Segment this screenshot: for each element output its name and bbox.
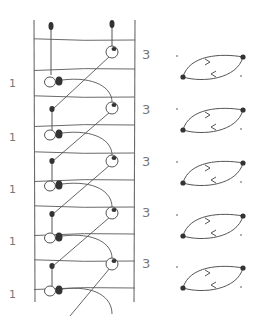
node-highlight <box>112 103 117 107</box>
right-label: 3 <box>142 206 150 219</box>
left-label: 1 <box>9 289 16 300</box>
left-label: 1 <box>9 132 16 143</box>
dark-node <box>56 286 63 295</box>
cycle-diagram <box>176 54 245 79</box>
cycle-node-left <box>180 180 185 185</box>
arrow-left-icon <box>211 230 216 236</box>
open-node-1 <box>45 181 56 191</box>
tick-mark <box>176 214 178 216</box>
arc-strand <box>62 183 112 207</box>
lower-arc <box>183 216 243 239</box>
open-node-3 <box>106 46 118 58</box>
arrow-left-icon <box>211 71 216 77</box>
tick-mark <box>176 161 178 163</box>
rung <box>34 206 135 208</box>
left-label: 1 <box>9 236 16 247</box>
right-label: 3 <box>142 103 150 116</box>
tick-mark <box>240 75 242 77</box>
arrow-right-icon <box>205 165 210 171</box>
arc-strand <box>62 79 112 102</box>
left-label: 1 <box>9 184 16 195</box>
rung <box>34 125 135 127</box>
small-dot <box>49 158 54 164</box>
ladder-cycle-diagram <box>0 0 264 316</box>
cycle-node-right <box>240 54 245 59</box>
upper-arc <box>183 214 243 236</box>
cycle-node-right <box>240 107 245 112</box>
rung <box>34 96 135 98</box>
cycle-diagram <box>176 107 245 132</box>
diagonal-strand <box>70 268 110 316</box>
open-node-1 <box>45 77 56 87</box>
open-node-1 <box>45 286 56 296</box>
tick-mark <box>176 55 178 57</box>
arrow-right-icon <box>205 218 210 224</box>
upper-arc <box>183 161 243 183</box>
arrow-right-icon <box>205 270 210 276</box>
left-label: 1 <box>9 78 16 89</box>
rung <box>34 39 135 41</box>
cycle-node-left <box>180 74 185 79</box>
node-highlight <box>112 47 117 51</box>
arc-strand <box>62 288 112 314</box>
cycle-node-right <box>240 213 245 218</box>
right-rail <box>134 20 135 302</box>
upper-arc <box>183 55 243 77</box>
node-highlight <box>112 208 117 212</box>
dark-node <box>56 233 63 242</box>
rung <box>34 260 135 262</box>
dark-node <box>56 130 63 139</box>
top-right-dot <box>110 20 115 28</box>
upper-arc <box>183 108 243 130</box>
upper-arc <box>183 266 243 288</box>
arrow-left-icon <box>211 124 216 130</box>
cycle-node-left <box>180 127 185 132</box>
node-highlight <box>112 156 117 160</box>
cycle-node-right <box>240 160 245 165</box>
cycle-node-left <box>180 233 185 238</box>
right-label: 3 <box>142 257 150 270</box>
ladder <box>34 20 135 302</box>
tick-mark <box>240 128 242 130</box>
arrow-right-icon <box>205 112 210 118</box>
arrow-left-icon <box>211 177 216 183</box>
cycle-diagram <box>176 160 245 185</box>
tick-mark <box>176 108 178 110</box>
top-left-dot <box>49 22 54 30</box>
small-dot <box>49 263 54 269</box>
lower-arc <box>183 57 243 80</box>
arc-strand <box>62 235 112 258</box>
cycle-diagram <box>176 213 245 238</box>
node-highlight <box>112 259 117 263</box>
cycle-node-right <box>240 265 245 270</box>
open-node-1 <box>45 130 56 140</box>
right-label: 3 <box>142 48 150 61</box>
small-dot <box>49 211 54 217</box>
lower-arc <box>183 163 243 186</box>
tick-mark <box>240 181 242 183</box>
dark-node <box>56 181 63 190</box>
arrow-right-icon <box>205 59 210 65</box>
open-node-1 <box>45 233 56 243</box>
small-dot <box>49 106 54 112</box>
open-node-3 <box>106 258 118 270</box>
tick-mark <box>240 234 242 236</box>
strands <box>45 20 119 316</box>
rung <box>34 152 135 154</box>
lower-arc <box>183 110 243 133</box>
tick-mark <box>240 286 242 288</box>
lower-arc <box>183 268 243 291</box>
rung <box>34 69 135 71</box>
arrow-left-icon <box>211 282 216 288</box>
cycle-node-left <box>180 285 185 290</box>
dark-node <box>56 77 63 86</box>
cycle-diagram <box>176 265 245 290</box>
arc-strand <box>62 132 112 155</box>
right-label: 3 <box>142 155 150 168</box>
cycle-diagrams <box>176 54 245 290</box>
tick-mark <box>176 266 178 268</box>
